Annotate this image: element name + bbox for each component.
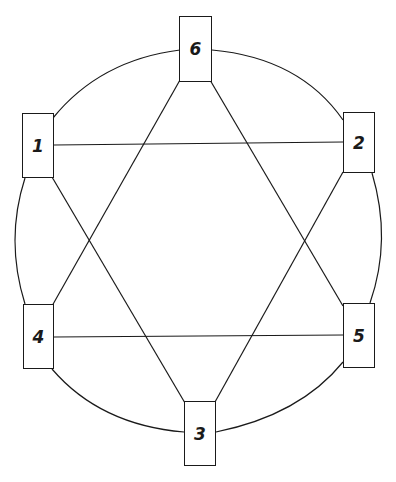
node-3: 3: [184, 401, 216, 466]
node-label: 3: [194, 424, 206, 444]
node-label: 4: [33, 327, 45, 347]
arc-3-4: [52, 369, 184, 432]
arc-2-5: [370, 173, 382, 303]
node-6: 6: [179, 16, 212, 82]
node-1: 1: [22, 113, 54, 178]
node-label: 1: [32, 136, 44, 156]
node-4: 4: [23, 304, 54, 369]
chord-2-3: [215, 172, 343, 402]
chord-1-2: [54, 142, 343, 145]
chord-4-5: [54, 335, 343, 337]
arc-4-1: [15, 178, 25, 304]
node-5: 5: [343, 303, 375, 368]
chord-1-3: [52, 177, 185, 403]
chord-6-4: [52, 80, 180, 306]
chord-6-5: [210, 80, 343, 306]
arc-1-6: [53, 50, 180, 118]
node-label: 6: [190, 39, 202, 59]
node-label: 2: [353, 133, 365, 153]
node-2: 2: [343, 112, 375, 173]
arc-5-3: [216, 362, 343, 432]
arc-6-2: [212, 50, 343, 120]
node-label: 5: [353, 326, 365, 346]
